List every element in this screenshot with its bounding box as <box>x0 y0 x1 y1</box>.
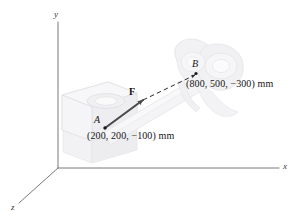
force-vector-figure: y x z A (200, 200, −100) mm B (800, 500,… <box>0 0 304 224</box>
point-a-coordinates: (200, 200, −100) mm <box>87 131 174 141</box>
z-axis <box>19 168 58 203</box>
diagram-canvas <box>0 0 304 224</box>
point-b-marker <box>194 72 197 75</box>
point-b-coordinates: (800, 500, −300) mm <box>186 79 273 89</box>
x-axis-label: x <box>283 162 287 171</box>
background-machinery <box>62 39 243 163</box>
z-axis-label: z <box>11 203 15 212</box>
point-b-label: B <box>192 59 198 69</box>
force-vector-label: F <box>129 87 135 97</box>
y-axis-label: y <box>54 10 58 19</box>
point-a-label: A <box>94 115 100 125</box>
